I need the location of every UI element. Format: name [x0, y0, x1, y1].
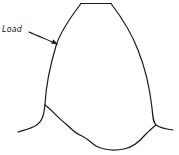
- gear-tooth-drawing: [0, 0, 179, 155]
- fracture-line: [45, 105, 156, 150]
- gear-tooth-diagram: Load: [0, 0, 179, 155]
- tooth-left-flank: [18, 4, 81, 133]
- tooth-right-flank: [111, 4, 173, 131]
- load-label: Load: [2, 25, 22, 34]
